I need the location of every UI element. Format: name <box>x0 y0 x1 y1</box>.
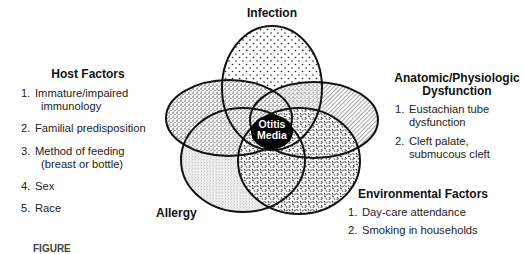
environmental-title: Environmental Factors <box>358 188 488 201</box>
environmental-item-1-num: 1. <box>348 206 357 219</box>
anatomic-item-1: Eustachian tube <box>409 103 489 116</box>
figure-caption: FIGURE <box>33 243 71 254</box>
host-item-1-cont: immunology <box>41 100 101 113</box>
anatomic-title-line2: Dysfunction <box>422 85 491 98</box>
environmental-item-2: Smoking in households <box>362 224 478 237</box>
anatomic-item-2-num: 2. <box>395 135 404 148</box>
host-item-4: Sex <box>35 180 54 193</box>
center-label-line2: Media <box>257 129 287 141</box>
infection-title: Infection <box>247 7 297 20</box>
host-item-1: Immature/impaired <box>35 87 128 100</box>
host-item-4-num: 4. <box>21 180 30 193</box>
host-item-3: Method of feeding <box>35 145 125 158</box>
caption-text: FIGURE <box>33 243 71 254</box>
host-item-2: Familial predisposition <box>35 122 146 135</box>
host-factors-title: Host Factors <box>51 68 124 81</box>
host-item-1-num: 1. <box>21 87 30 100</box>
allergy-title: Allergy <box>156 207 197 220</box>
host-item-3-num: 3. <box>21 145 30 158</box>
anatomic-item-2: Cleft palate, <box>409 135 469 148</box>
anatomic-item-1-cont: dysfunction <box>409 116 466 129</box>
anatomic-item-2-cont: submucous cleft <box>409 148 490 161</box>
anatomic-item-1-num: 1. <box>395 103 404 116</box>
environmental-item-2-num: 2. <box>348 224 357 237</box>
host-item-5: Race <box>35 202 61 215</box>
host-item-3-cont: (breast or bottle) <box>41 158 123 171</box>
host-item-2-num: 2. <box>21 122 30 135</box>
host-item-5-num: 5. <box>21 202 30 215</box>
environmental-item-1: Day-care attendance <box>362 206 466 219</box>
